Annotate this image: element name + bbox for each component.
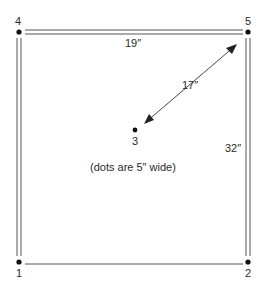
- dot-1: [16, 259, 21, 264]
- bottom-edge: [25, 260, 243, 264]
- dot-3: [133, 128, 138, 133]
- label-point-1: 1: [16, 268, 22, 279]
- dimension-right-height: 32″: [225, 143, 241, 154]
- dot-4: [16, 29, 21, 34]
- right-edge: [246, 38, 250, 256]
- label-point-3: 3: [132, 136, 138, 147]
- dimension-diagonal: 17″: [182, 80, 198, 91]
- label-point-4: 4: [15, 16, 21, 27]
- label-point-5: 5: [245, 16, 251, 27]
- dimension-top-width: 19″: [125, 38, 141, 49]
- dot-2: [245, 259, 250, 264]
- dot-5: [245, 29, 250, 34]
- left-edge: [17, 38, 21, 256]
- label-point-2: 2: [245, 268, 251, 279]
- top-edge: [25, 30, 243, 34]
- dots-size-note: (dots are 5″ wide): [90, 162, 176, 173]
